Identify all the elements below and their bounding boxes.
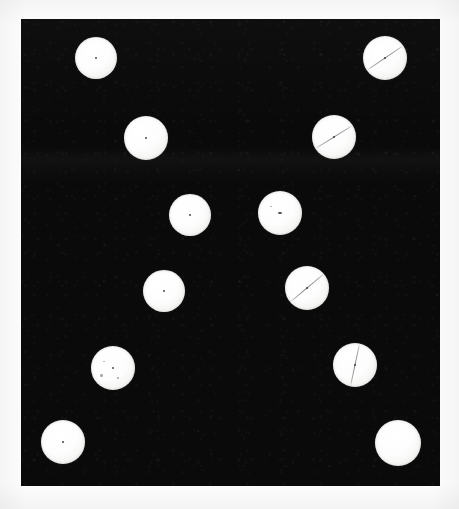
tablet-surface-speck xyxy=(117,377,119,379)
tablet-center-mark xyxy=(278,212,281,215)
tablet-disc xyxy=(333,343,377,387)
tablet-disc xyxy=(363,36,407,80)
panel-light-band xyxy=(21,147,440,183)
scan-page-background: Twelve round white tablets arranged on a… xyxy=(0,0,459,509)
tablet-score-line xyxy=(290,273,324,302)
tablet-disc xyxy=(91,346,135,390)
tablet-center-mark xyxy=(306,287,308,289)
tablet-center-mark xyxy=(384,57,387,59)
tablet-surface-speck xyxy=(270,206,272,208)
tablet-center-mark xyxy=(145,137,147,138)
tablet-center-mark xyxy=(95,57,97,59)
tablet-disc xyxy=(75,37,117,79)
tablet-surface-speck xyxy=(100,374,103,377)
tablet-center-mark xyxy=(189,214,191,216)
tablet-disc xyxy=(312,115,356,159)
specimen-panel xyxy=(21,19,440,486)
image-caption: Twelve round white tablets arranged on a… xyxy=(0,0,1,1)
tablet-disc xyxy=(375,420,421,466)
tablet-score-line xyxy=(350,343,360,386)
tablet-disc xyxy=(285,266,329,310)
tablet-score-line xyxy=(315,125,353,149)
tablet-center-mark xyxy=(163,290,165,292)
tablet-center-mark xyxy=(62,441,64,442)
panel-grain-texture xyxy=(21,19,440,486)
tablet-disc xyxy=(169,194,211,236)
tablet-center-mark xyxy=(354,364,356,366)
tablet-center-mark xyxy=(333,136,336,138)
tablet-score-line xyxy=(366,45,403,70)
tablet-disc xyxy=(41,420,85,464)
tablet-disc xyxy=(258,191,302,235)
tablet-disc xyxy=(143,270,185,312)
tablet-center-mark xyxy=(112,367,115,369)
tablet-disc xyxy=(124,116,168,160)
tablet-surface-speck xyxy=(103,361,105,363)
